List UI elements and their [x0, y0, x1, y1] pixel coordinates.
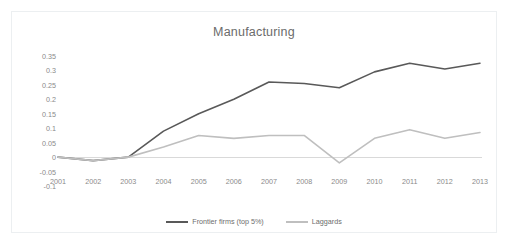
y-axis-tick-label: 0.2: [46, 95, 56, 104]
series-lines: [58, 56, 480, 186]
x-axis: 2001200220032004200520062007200820092010…: [12, 177, 496, 191]
legend-label: Laggards: [312, 217, 342, 226]
x-axis-tick-label: 2008: [296, 177, 312, 186]
y-axis-tick-label: 0.15: [42, 109, 56, 118]
legend-label: Frontier firms (top 5%): [192, 217, 264, 226]
x-axis-tick-label: 2011: [402, 177, 417, 186]
y-axis-tick-label: 0.1: [46, 124, 56, 133]
x-axis-tick-label: 2005: [191, 177, 207, 186]
legend-item[interactable]: Laggards: [286, 217, 342, 226]
x-axis-tick-label: 2009: [331, 177, 347, 186]
x-axis-tick-label: 2013: [472, 177, 488, 186]
legend-item[interactable]: Frontier firms (top 5%): [166, 217, 264, 226]
x-axis-tick-label: 2003: [120, 177, 136, 186]
chart-legend: Frontier firms (top 5%)Laggards: [12, 217, 496, 226]
series-line: [58, 130, 480, 163]
y-axis-tick-label: 0.05: [42, 138, 56, 147]
x-axis-tick-label: 2006: [226, 177, 242, 186]
x-axis-tick-label: 2002: [85, 177, 101, 186]
y-axis: 0.350.30.250.20.150.10.050-0.05-0.1: [12, 56, 56, 186]
y-axis-tick-label: 0.25: [42, 80, 56, 89]
y-axis-tick-label: 0.3: [46, 66, 56, 75]
x-axis-tick-label: 2007: [261, 177, 277, 186]
y-axis-tick-label: -0.05: [40, 167, 56, 176]
y-axis-tick-label: 0: [52, 153, 56, 162]
plot-area: [58, 56, 480, 186]
x-axis-tick-label: 2004: [156, 177, 172, 186]
legend-swatch-icon: [166, 221, 188, 223]
y-axis-tick-label: 0.35: [42, 52, 56, 61]
x-axis-tick-label: 2012: [437, 177, 453, 186]
x-axis-tick-label: 2010: [367, 177, 383, 186]
legend-swatch-icon: [286, 221, 308, 223]
x-axis-tick-label: 2001: [50, 177, 66, 186]
chart-title: Manufacturing: [12, 25, 496, 39]
chart-frame: Manufacturing 0.350.30.250.20.150.10.050…: [11, 11, 497, 233]
series-line: [58, 63, 480, 160]
